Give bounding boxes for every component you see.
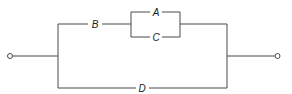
input-terminal xyxy=(8,54,13,59)
label-b: B xyxy=(92,19,99,30)
label-a: A xyxy=(152,7,160,18)
label-d: D xyxy=(138,83,145,94)
network-diagram: B A C D xyxy=(0,0,292,94)
label-c: C xyxy=(152,32,160,43)
output-terminal xyxy=(275,54,280,59)
